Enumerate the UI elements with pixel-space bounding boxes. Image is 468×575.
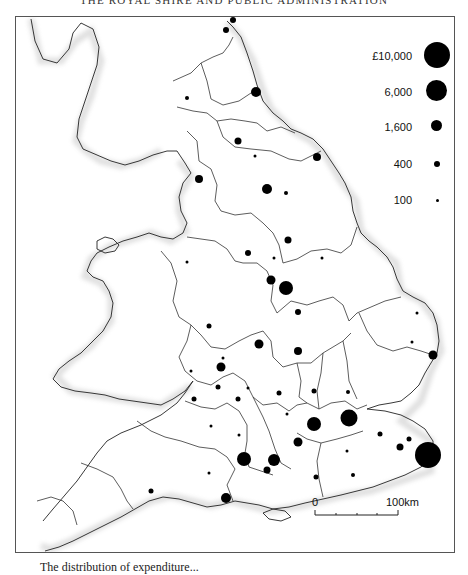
proportional-symbol-icon	[277, 391, 282, 396]
proportional-symbol-icon	[286, 413, 289, 416]
proportional-symbol-icon	[208, 472, 211, 475]
figure-caption: The distribution of expenditure...	[0, 560, 468, 575]
proportional-symbol-icon	[397, 444, 404, 451]
proportional-symbol-icon	[407, 437, 412, 442]
proportional-symbol-icon	[245, 250, 251, 256]
legend-circle-icon	[434, 161, 440, 167]
proportional-symbol-icon	[223, 27, 229, 33]
legend-circle-icon	[431, 120, 442, 131]
proportional-symbol-icon	[294, 438, 303, 447]
proportional-symbol-icon	[351, 473, 355, 477]
proportional-symbol-icon	[236, 397, 241, 402]
proportional-symbol-icon	[314, 475, 319, 480]
legend-label: 100	[394, 192, 412, 208]
proportional-symbol-icon	[267, 276, 276, 285]
proportional-symbol-icon	[307, 417, 321, 431]
legend-label: 1,600	[384, 119, 412, 135]
legend-label: 6,000	[384, 84, 412, 100]
proportional-symbol-icon	[284, 191, 288, 195]
legend-label: £10,000	[372, 48, 412, 64]
proportional-symbol-icon	[312, 389, 317, 394]
proportional-symbol-icon	[247, 387, 250, 390]
proportional-symbol-icon	[346, 450, 349, 453]
proportional-symbol-icon	[264, 467, 271, 474]
proportional-symbol-icon	[415, 442, 441, 468]
legend-circle-icon	[436, 199, 439, 202]
proportional-symbol-icon	[254, 155, 257, 158]
proportional-symbol-icon	[221, 493, 231, 503]
legend-row-10000: £10,000	[370, 42, 460, 70]
proportional-symbol-icon	[341, 410, 358, 427]
proportional-symbol-icon	[294, 347, 302, 355]
proportional-symbol-icon	[186, 261, 189, 264]
proportional-symbol-icon	[190, 370, 193, 373]
legend-row-6000: 6,000	[370, 80, 460, 104]
proportional-symbol-icon	[313, 153, 321, 161]
scale-bar: 0 100km	[312, 496, 432, 536]
proportional-symbol-icon	[295, 309, 301, 315]
scale-ruler-icon	[312, 496, 432, 536]
legend-label: 400	[394, 156, 412, 172]
proportional-symbol-icon	[207, 324, 212, 329]
proportional-symbol-icon	[262, 184, 272, 194]
proportional-symbol-icon	[285, 237, 292, 244]
proportional-symbol-icon	[185, 96, 189, 100]
legend-row-100: 100	[370, 192, 460, 212]
legend-circle-icon	[424, 42, 450, 68]
proportional-symbol-icon	[411, 341, 414, 344]
proportional-symbol-icon	[192, 397, 197, 402]
proportional-symbol-icon	[216, 385, 221, 390]
proportional-symbol-icon	[235, 138, 242, 145]
proportional-symbol-icon	[237, 452, 251, 466]
legend-row-400: 400	[370, 156, 460, 176]
proportional-symbol-icon	[230, 17, 236, 23]
proportional-symbol-icon	[255, 340, 264, 349]
proportional-symbol-icon	[321, 257, 324, 260]
proportional-symbol-icon	[279, 281, 293, 295]
running-head: THE ROYAL SHIRE AND PUBLIC ADMINISTRATIO…	[0, 0, 468, 6]
proportional-symbol-icon	[273, 257, 276, 260]
proportional-symbol-icon	[416, 312, 419, 315]
proportional-symbol-icon	[217, 363, 226, 372]
proportional-symbol-icon	[210, 425, 213, 428]
legend-row-1600: 1,600	[370, 118, 460, 138]
proportional-symbol-icon	[251, 87, 261, 97]
proportional-symbol-icon	[222, 357, 225, 360]
legend-circle-icon	[426, 80, 447, 101]
proportional-symbol-icon	[429, 351, 438, 360]
proportional-symbol-icon	[149, 489, 154, 494]
proportional-symbol-icon	[238, 434, 241, 437]
proportional-symbol-icon	[268, 454, 280, 466]
proportional-symbol-icon	[346, 390, 350, 394]
proportional-symbol-icon	[378, 432, 383, 437]
proportional-symbol-icon	[195, 175, 203, 183]
